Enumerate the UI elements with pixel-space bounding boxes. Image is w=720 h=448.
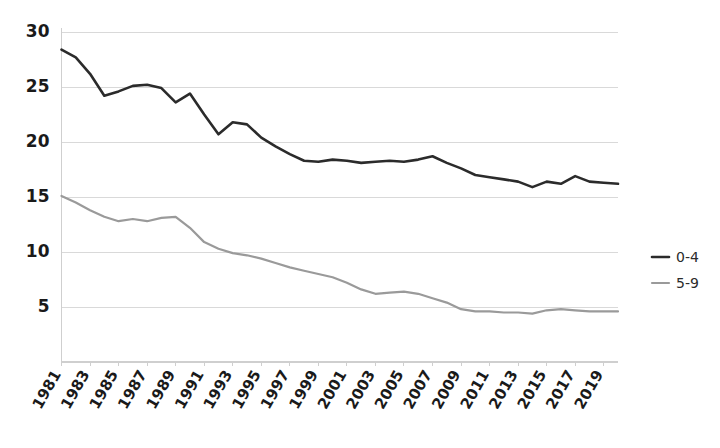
x-axis-tick-labels: 1981198319851987198919911993199519971999… <box>29 367 608 412</box>
chart-canvas: 51015202530 1981198319851987198919911993… <box>0 0 720 448</box>
x-tick-label-2019: 2019 <box>571 367 607 412</box>
legend-label-0-4: 0-4 <box>676 249 699 265</box>
legend-item-0-4[interactable]: 0-4 <box>652 249 699 265</box>
gridlines <box>62 32 619 307</box>
data-series <box>62 50 619 314</box>
y-tick-label-30: 30 <box>26 21 50 41</box>
y-tick-label-10: 10 <box>26 241 50 261</box>
chart-legend: 0-45-9 <box>652 249 699 291</box>
legend-item-5-9[interactable]: 5-9 <box>652 275 699 291</box>
line-chart: 51015202530 1981198319851987198919911993… <box>0 0 720 448</box>
y-tick-label-20: 20 <box>26 131 50 151</box>
legend-label-5-9: 5-9 <box>676 275 699 291</box>
y-axis-tick-labels: 51015202530 <box>26 21 50 316</box>
series-line-0-4 <box>62 50 619 188</box>
y-tick-label-25: 25 <box>26 76 50 96</box>
y-tick-label-15: 15 <box>26 186 50 206</box>
series-line-5-9 <box>62 196 619 314</box>
y-tick-label-5: 5 <box>38 296 50 316</box>
